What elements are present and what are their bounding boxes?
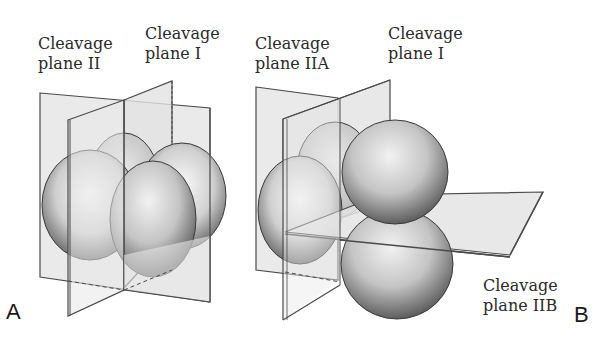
label-line: Cleavage (38, 34, 113, 53)
label-line: Cleavage (255, 34, 330, 53)
label-line: Cleavage (388, 24, 463, 43)
label-line: plane I (145, 44, 201, 63)
label-cleavage-plane-iib: Cleavageplane IIB (483, 276, 558, 316)
label-line: Cleavage (145, 24, 220, 43)
panel-letter-b: B (574, 302, 589, 328)
label-line: plane II (38, 54, 100, 73)
blastomere-b-bottom (341, 209, 453, 319)
label-cleavage-plane-i-a: Cleavageplane I (145, 24, 220, 64)
label-cleavage-plane-ii: Cleavageplane II (38, 34, 113, 74)
label-line: plane I (388, 44, 444, 63)
panel-a-embryo (40, 81, 226, 316)
label-line: plane IIB (483, 296, 557, 315)
cleavage-plane-i-front (68, 100, 124, 316)
blastomere-b-top (342, 120, 448, 224)
label-cleavage-plane-i-b: Cleavageplane I (388, 24, 463, 64)
label-cleavage-plane-iia: Cleavageplane IIA (255, 34, 330, 74)
label-line: plane IIA (255, 54, 329, 73)
panel-letter-a: A (6, 299, 21, 325)
label-line: Cleavage (483, 276, 558, 295)
